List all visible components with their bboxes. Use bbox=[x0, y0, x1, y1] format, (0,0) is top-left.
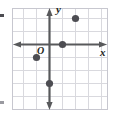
edge-mark-left-bottom bbox=[0, 101, 4, 104]
coordinate-plane-svg: y x O bbox=[0, 0, 116, 118]
y-axis-label: y bbox=[54, 3, 61, 15]
data-point bbox=[59, 41, 66, 48]
coordinate-plane-figure: y x O bbox=[0, 0, 116, 118]
data-point bbox=[33, 54, 40, 61]
edge-mark-left-top bbox=[0, 14, 4, 17]
data-point bbox=[46, 80, 53, 87]
data-point bbox=[72, 15, 79, 22]
plot-background bbox=[12, 8, 108, 110]
x-axis-label: x bbox=[99, 46, 106, 58]
